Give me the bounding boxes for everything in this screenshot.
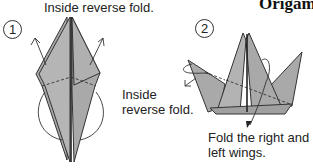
step-2-arrowhead — [246, 121, 252, 128]
step-2-crane-diagram — [0, 0, 313, 168]
